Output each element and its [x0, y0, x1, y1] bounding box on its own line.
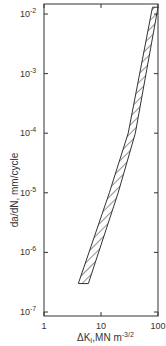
y-tick-label: 10-4 — [20, 126, 36, 138]
x-tick-label: 100 — [150, 321, 165, 331]
y-tick-label: 10-7 — [20, 305, 36, 317]
y-tick-label: 10-5 — [20, 186, 36, 198]
y-tick-label: 10-6 — [20, 245, 36, 257]
x-tick-label: 10 — [96, 321, 106, 331]
x-axis-title: ΔKI,MN m-3/2 — [77, 331, 134, 344]
y-axis-title: da/dN, mm/cycle — [9, 152, 20, 227]
y-tick-label: 10-3 — [20, 67, 36, 79]
fatigue-crack-growth-chart: 10-210-310-410-510-610-7 110100 da/dN, m… — [0, 0, 166, 346]
x-tick-label: 1 — [41, 321, 46, 331]
scatter-band — [78, 7, 158, 283]
scatter-band-area — [78, 7, 158, 283]
plot-frame — [44, 4, 158, 316]
y-tick-label: 10-2 — [20, 7, 36, 19]
